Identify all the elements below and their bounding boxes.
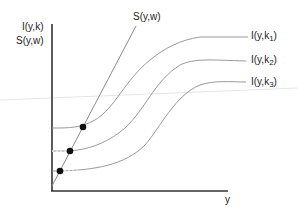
equilibrium-point-k2 [67,148,74,155]
x-axis-label: y [225,195,230,205]
y-axis-label-saving: S(y,w) [16,36,44,46]
saving-line [52,26,136,186]
equilibrium-point-k3 [57,168,64,175]
curve-label-k2: I(y,k2) [251,55,277,67]
curve-label-k1: I(y,k1) [251,31,277,43]
investment-curve-k2 [52,60,246,151]
investment-curve-k1 [52,37,248,128]
y-axis-label-investment: I(y,k) [22,22,43,32]
equilibrium-point-k1 [80,124,87,131]
curve-label-k3: I(y,k3) [251,77,277,89]
saving-line-label: S(y,w) [133,12,161,22]
